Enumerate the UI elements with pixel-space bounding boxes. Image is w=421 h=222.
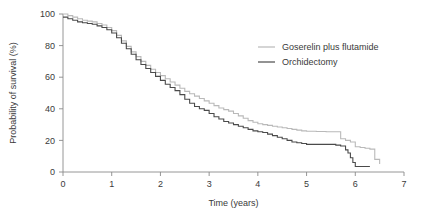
series-layer [63,14,380,166]
y-tick-label: 100 [40,9,55,19]
axis-layer [59,14,404,176]
series-line-goserelin-plus-flutamide [63,14,380,164]
x-tick-label: 1 [109,179,114,189]
x-tick-label: 0 [60,179,65,189]
x-tick-label: 6 [353,179,358,189]
y-tick-label: 40 [45,104,55,114]
legend-label-0: Goserelin plus flutamide [282,42,379,52]
x-tick-label: 4 [255,179,260,189]
label-layer: 01234567020406080100Time (years)Probabil… [8,9,407,208]
y-tick-label: 0 [50,167,55,177]
y-tick-label: 60 [45,72,55,82]
x-tick-label: 7 [401,179,406,189]
x-tick-label: 3 [207,179,212,189]
y-axis-title: Probability of survival (%) [8,42,18,144]
y-tick-label: 80 [45,41,55,51]
legend-label-1: Orchidectomy [282,57,338,67]
x-axis-title: Time (years) [208,198,258,208]
plot-area: Goserelin plus flutamideOrchidectomy 012… [0,0,421,222]
y-tick-label: 20 [45,136,55,146]
series-line-orchidectomy [63,17,370,166]
legend-layer: Goserelin plus flutamideOrchidectomy [258,42,379,67]
survival-chart: Goserelin plus flutamideOrchidectomy 012… [0,0,421,222]
x-tick-label: 5 [304,179,309,189]
x-tick-label: 2 [158,179,163,189]
